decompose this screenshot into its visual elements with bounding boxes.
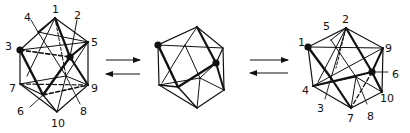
label-5: 5: [323, 20, 330, 33]
polyhedra-rearrangement-diagram: 1 2 3 4 5 6 7 8 9 10: [0, 0, 410, 133]
vertex-6-marker: [368, 68, 375, 75]
middle-polyhedron: [158, 27, 224, 108]
left-equilibrium-arrows: [106, 60, 140, 74]
vertex-2-marker: [66, 53, 73, 60]
label-7: 7: [9, 82, 16, 95]
label-1: 1: [298, 36, 305, 49]
vertex-3-marker: [16, 46, 23, 53]
middle-vertex-marker-right: [212, 59, 219, 66]
label-3: 3: [5, 40, 12, 53]
label-8: 8: [80, 105, 87, 118]
label-10: 10: [380, 92, 394, 105]
right-polyhedron: [308, 28, 388, 108]
label-4: 4: [24, 11, 31, 24]
vertex-1-marker: [304, 43, 311, 50]
label-6: 6: [392, 68, 399, 81]
middle-vertex-marker-left: [154, 41, 161, 48]
left-polyhedron: [20, 18, 88, 112]
label-3: 3: [317, 102, 324, 115]
label-2: 2: [74, 9, 81, 22]
label-4: 4: [302, 84, 309, 97]
label-9: 9: [91, 82, 98, 95]
label-9: 9: [385, 42, 392, 55]
label-5: 5: [91, 36, 98, 49]
label-7: 7: [347, 112, 354, 125]
label-6: 6: [17, 105, 24, 118]
label-2: 2: [342, 13, 349, 26]
label-10: 10: [51, 117, 65, 130]
right-equilibrium-arrows: [250, 60, 288, 73]
left-labels: 1 2 3 4 5 6 7 8 9 10: [5, 3, 98, 130]
label-1: 1: [52, 3, 59, 16]
label-8: 8: [367, 110, 374, 123]
